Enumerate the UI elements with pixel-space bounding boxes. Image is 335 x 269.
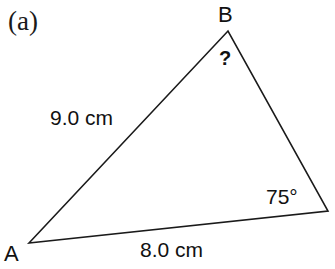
side-length-ac: 8.0 cm	[140, 239, 203, 260]
vertex-label-b: B	[218, 4, 233, 26]
side-length-ab: 9.0 cm	[50, 107, 113, 128]
vertex-label-a: A	[4, 243, 19, 265]
unknown-angle-marker: ?	[219, 48, 231, 68]
triangle-outline	[29, 31, 328, 243]
triangle-drawing	[0, 0, 335, 269]
part-label: (a)	[8, 8, 38, 35]
figure-canvas: (a) B A ? 9.0 cm 8.0 cm 75°	[0, 0, 335, 269]
angle-measure-c: 75°	[266, 186, 298, 207]
